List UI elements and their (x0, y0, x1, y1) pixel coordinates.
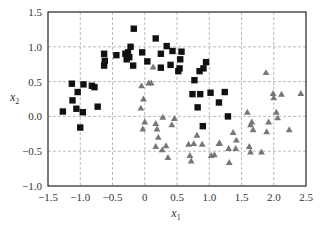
triangle-marker (297, 90, 304, 96)
square-marker (200, 123, 206, 129)
square-marker (123, 56, 129, 62)
x-tick-label: −1.0 (70, 191, 90, 203)
square-marker (60, 108, 66, 114)
square-marker (69, 80, 75, 86)
square-marker (167, 62, 173, 68)
square-marker (144, 58, 150, 64)
x-axis-label: x1 (170, 206, 180, 222)
square-marker (158, 51, 164, 57)
square-marker (222, 89, 228, 95)
triangle-marker (263, 128, 270, 134)
triangle-marker (155, 134, 162, 140)
triangle-marker (274, 114, 281, 120)
square-marker (196, 68, 202, 74)
triangle-marker (233, 137, 240, 143)
triangle-marker (265, 119, 272, 125)
x-tick-label: −0.5 (103, 191, 123, 203)
triangle-marker (152, 120, 159, 126)
square-marker (207, 90, 213, 96)
y-tick-label: 1.0 (28, 41, 42, 53)
square-marker (153, 35, 159, 41)
square-marker (216, 99, 222, 105)
triangle-marker (226, 159, 233, 165)
triangle-marker (139, 126, 146, 132)
x-tick-label: 2.5 (299, 191, 313, 203)
square-marker (131, 26, 137, 32)
triangle-marker (244, 109, 251, 115)
y-tick-label: −1.0 (22, 180, 42, 192)
square-marker (113, 52, 119, 58)
square-marker (177, 56, 183, 62)
square-marker (139, 49, 145, 55)
triangle-marker (232, 145, 239, 151)
triangle-marker (168, 121, 175, 127)
x-axis-ticks: −1.5−1.0−0.500.51.01.52.02.5 (38, 191, 313, 203)
triangle-marker (286, 126, 293, 132)
square-marker (101, 62, 107, 68)
triangle-marker (190, 140, 197, 146)
y-axis-ticks: −1.0−0.50.00.51.01.5 (22, 6, 42, 192)
triangle-marker (140, 96, 147, 102)
x-tick-label: 0.5 (170, 191, 184, 203)
square-marker (169, 48, 175, 54)
y-tick-label: −0.5 (22, 145, 42, 157)
square-marker (101, 51, 107, 57)
triangle-marker (152, 143, 159, 149)
triangle-marker (263, 69, 270, 75)
square-marker (127, 44, 133, 50)
triangle-marker (194, 132, 201, 138)
square-marker (80, 81, 86, 87)
square-marker (189, 91, 195, 97)
triangle-marker (138, 82, 145, 88)
triangle-marker (199, 141, 206, 147)
triangle-marker (141, 119, 148, 125)
y-axis-label: x2 (9, 90, 19, 106)
square-marker (175, 68, 181, 74)
triangle-marker (216, 139, 223, 145)
triangle-marker (154, 126, 161, 132)
triangle-marker (150, 64, 157, 70)
y-tick-label: 0.0 (28, 110, 42, 122)
square-marker (74, 89, 80, 95)
y-tick-label: 0.5 (28, 76, 42, 88)
square-marker (163, 43, 169, 49)
triangle-marker (278, 91, 285, 97)
x-tick-label: 1.5 (235, 191, 249, 203)
x-tick-label: 1.0 (202, 191, 216, 203)
scatter-chart: −1.5−1.0−0.500.51.01.52.02.5 −1.0−0.50.0… (0, 0, 322, 236)
square-marker (203, 59, 209, 65)
square-marker (80, 109, 86, 115)
x-tick-label: 2.0 (267, 191, 281, 203)
square-marker (94, 103, 100, 109)
triangle-marker (246, 143, 253, 149)
triangle-marker (187, 152, 194, 158)
square-marker (77, 124, 83, 130)
square-marker (91, 84, 97, 90)
square-marker (158, 64, 164, 70)
square-marker (73, 106, 79, 112)
triangle-marker (225, 145, 232, 151)
square-marker (130, 62, 136, 68)
triangle-marker (137, 105, 144, 111)
square-marker (194, 104, 200, 110)
square-marker (191, 77, 197, 83)
square-marker (197, 91, 203, 97)
grid-lines (48, 12, 306, 186)
triangle-marker (230, 129, 237, 135)
triangle-marker (270, 90, 277, 96)
square-marker (225, 113, 231, 119)
triangle-marker (165, 154, 172, 160)
square-marker (178, 48, 184, 54)
y-tick-label: 1.5 (28, 6, 42, 18)
square-marker (69, 97, 75, 103)
data-points (60, 26, 305, 165)
triangle-marker (163, 142, 170, 148)
x-tick-label: −1.5 (38, 191, 58, 203)
x-tick-label: 0 (142, 191, 148, 203)
triangle-marker (188, 158, 195, 164)
